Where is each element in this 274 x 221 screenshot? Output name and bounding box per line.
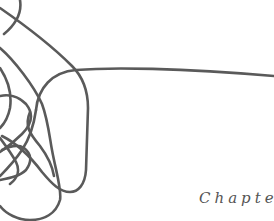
tangled-line-illustration [0, 0, 274, 221]
scribble-stroke [0, 8, 88, 192]
chapter-heading: Chapter [199, 189, 274, 207]
chapter-opener-page: Chapter [0, 0, 274, 221]
scribble-stroke [36, 68, 274, 110]
scribble-stroke [0, 68, 11, 128]
